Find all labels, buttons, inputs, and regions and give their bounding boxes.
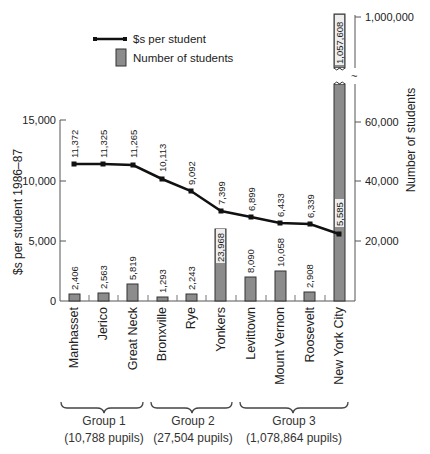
group-braces [61,402,348,413]
line-label: 7,399 [216,181,227,205]
group-name: Group 3 [272,414,316,428]
line-label: 11,325 [98,130,109,158]
bar-label: 2,908 [304,264,315,288]
category-label: Roosevelt [303,306,317,362]
break-zigzag-icon [334,82,345,84]
break-zigzag-icon [334,68,345,70]
bar-label: 8,090 [245,249,256,273]
group-pupils: (1,078,864 pupils) [246,431,342,445]
left-tick: 5,000 [28,235,56,247]
legend: $s per student Number of students [93,33,234,66]
right-tick: 1,000,000 [365,11,414,23]
legend-line-label: $s per student [133,33,207,45]
bar-label: 2,243 [186,266,197,290]
bar-label: 1,057,608 [334,22,345,64]
left-tick: 10,000 [22,175,56,187]
brace-group-1 [61,402,143,413]
line-series [74,164,339,234]
group-name: Group 2 [171,414,215,428]
line-label: 11,265 [128,130,139,158]
bar [304,292,315,301]
bar [245,277,256,301]
axis-break-icon: ~ [351,70,357,82]
line-markers [72,162,342,237]
bar [127,284,138,301]
category-label: New York City [332,306,346,385]
left-axis-title: $s per student 1986–87 [11,149,25,275]
line-label: 6,899 [246,187,257,211]
category-label: Jerico [96,307,110,340]
bar-label: 2,563 [98,265,109,289]
bar [186,294,197,301]
left-tick: 15,000 [22,114,56,126]
category-label: Levittown [244,307,258,360]
bar [98,293,109,301]
category-label: Rye [184,307,198,329]
brace-group-3 [240,402,348,413]
group-name: Group 1 [82,414,126,428]
category-label: Bronxville [155,307,169,361]
left-axis: 15,000 10,000 5,000 0 $s per student 198… [11,114,66,307]
bar-label: 10,058 [275,238,286,267]
right-axis-title: Number of students [404,88,418,193]
group-labels: Group 1 (10,788 pupils) Group 2 (27,504 … [64,414,342,445]
legend-marker-icon [93,37,97,41]
bar [157,297,168,301]
right-tick: 60,000 [365,116,399,128]
left-tick: 0 [50,295,56,307]
category-label: Mount Vernon [273,307,287,385]
group-pupils: (27,504 pupils) [153,431,232,445]
bar-label: 23,968 [215,233,226,262]
legend-marker-icon [123,37,127,41]
right-tick: 40,000 [365,175,399,187]
right-axis: ~ 1,000,000 60,000 40,000 20,000 Number … [351,11,418,301]
line-labels: 11,372 11,325 11,265 10,113 9,092 7,399 … [69,130,345,227]
category-labels: Manhasset Jerico Great Neck Bronxville R… [67,306,346,385]
category-label: Yonkers [214,307,228,352]
bar-nyc-lower [334,84,345,301]
bar [69,294,80,301]
x-ticks [89,295,325,301]
category-label: Great Neck [126,306,140,370]
bar-label: 2,406 [69,266,80,290]
right-tick: 20,000 [365,235,399,247]
bar [275,271,286,301]
line-label: 6,339 [305,194,316,218]
line-label: 10,113 [157,144,168,172]
bar-label: 1,293 [157,269,168,293]
bar-label: 5,819 [127,256,138,280]
line-label: 9,092 [186,161,197,185]
category-label: Manhasset [67,306,81,368]
group-pupils: (10,788 pupils) [64,431,143,445]
brace-group-2 [151,402,232,413]
line-label: 5,585 [334,202,345,226]
legend-bar-label: Number of students [133,52,234,64]
line-label: 6,433 [275,193,286,217]
chart-canvas: $s per student Number of students 15,000… [0,0,430,454]
line-label: 11,372 [69,130,80,158]
legend-bar-icon [116,49,126,66]
